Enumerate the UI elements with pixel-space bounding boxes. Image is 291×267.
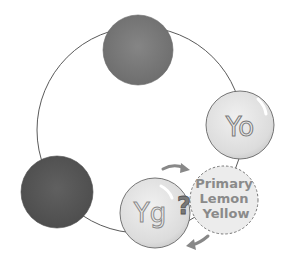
callout-line-3: Yellow — [202, 206, 250, 221]
callout-line-2: Lemon — [200, 191, 249, 206]
top-color-circle — [103, 15, 173, 85]
yo-label: Yo — [225, 112, 254, 142]
arrow-left-icon — [186, 236, 208, 250]
yo-circle: Yo — [206, 91, 274, 159]
left-color-circle — [21, 156, 93, 228]
yg-label: Yg — [133, 198, 166, 228]
diagram-canvas: Yo Primary Lemon Yellow Yg ? — [0, 0, 291, 267]
callout-circle: Primary Lemon Yellow — [190, 166, 258, 234]
arrow-right-icon — [163, 163, 190, 173]
color-wheel-diagram: Yo Primary Lemon Yellow Yg ? — [0, 0, 291, 267]
callout-line-1: Primary — [195, 176, 253, 191]
question-mark: ? — [177, 192, 191, 220]
